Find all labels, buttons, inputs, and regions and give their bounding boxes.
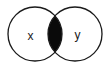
- venn-diagram: x y: [0, 0, 107, 63]
- set-y-label: y: [75, 28, 81, 42]
- set-x-label: x: [28, 29, 34, 43]
